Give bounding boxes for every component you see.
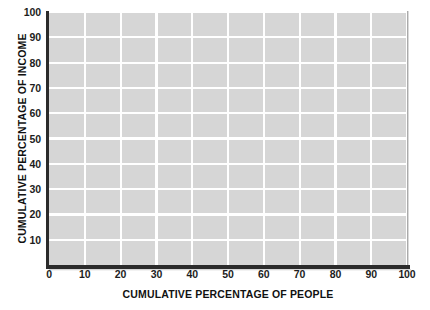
y-tick-label: 80	[30, 57, 41, 69]
x-axis-title: CUMULATIVE PERCENTAGE OF PEOPLE	[49, 288, 407, 300]
y-tick-label: 60	[30, 107, 41, 119]
x-tick-label: 100	[398, 268, 415, 280]
y-tick-label: 50	[30, 133, 41, 145]
x-tick-label: 60	[258, 268, 269, 280]
y-tick-label: 20	[30, 208, 41, 220]
x-tick-label: 30	[151, 268, 162, 280]
y-tick-label: 30	[30, 183, 41, 195]
x-tick-label: 10	[79, 268, 90, 280]
x-tick-label: 80	[330, 268, 341, 280]
plot-right-edge	[407, 11, 409, 266]
y-tick-label: 70	[30, 82, 41, 94]
y-axis-line	[46, 11, 49, 268]
x-tick-label: 50	[222, 268, 233, 280]
x-tick-label: 20	[115, 268, 126, 280]
grid-lines	[49, 12, 407, 265]
y-tick-label: 90	[30, 31, 41, 43]
x-tick-label: 0	[46, 268, 52, 280]
plot-area-wrapper	[49, 12, 407, 265]
x-tick-label: 90	[365, 268, 376, 280]
y-axis-title: CUMULATIVE PERCENTAGE OF INCOME	[14, 12, 30, 265]
x-tick-label: 40	[186, 268, 197, 280]
y-tick-label: 40	[30, 158, 41, 170]
chart-figure: 0102030405060708090100 10203040506070809…	[0, 0, 430, 310]
y-tick-label: 10	[30, 234, 41, 246]
x-tick-label: 70	[294, 268, 305, 280]
